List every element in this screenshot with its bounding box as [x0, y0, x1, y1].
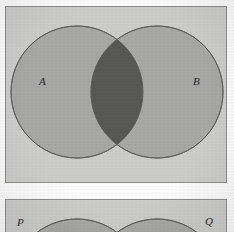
set-p-label: P [17, 217, 24, 228]
venn-diagram-ab [6, 7, 226, 182]
set-q-label: Q [205, 216, 213, 227]
venn-diagram-pq [6, 200, 226, 232]
figure-page: A B P Q [0, 0, 234, 232]
set-b-label: B [193, 76, 200, 87]
venn-panel-top: A B [5, 6, 227, 183]
venn-panel-bottom [5, 199, 227, 232]
set-a-label: A [39, 76, 46, 87]
